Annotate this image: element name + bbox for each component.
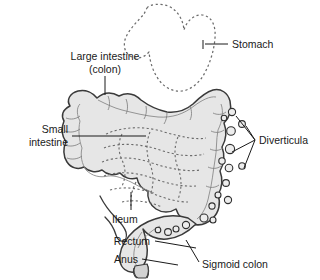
diverticulum [228,108,235,115]
diverticulum [224,196,231,203]
diverticulum [225,144,234,153]
diverticulum [210,217,216,223]
diverticulum [215,192,221,198]
diverticulosis-diagram: Large intestine (colon) Stomach Small in… [0,0,320,280]
label-rectum: Rectum [114,235,150,247]
diverticulum [173,226,179,232]
label-small-intestine-line1: Small [42,123,68,135]
diverticulum [182,221,189,228]
diverticulum [209,203,215,209]
label-sigmoid-colon: Sigmoid colon [202,258,268,270]
diverticulum [165,229,172,236]
diverticulum [219,158,225,164]
label-large-intestine-line2: (colon) [89,63,121,75]
diverticulum [223,180,230,187]
label-small-intestine-line2: intestine [29,136,68,148]
label-diverticula: Diverticula [259,134,308,146]
diverticulum [155,227,161,233]
label-stomach: Stomach [232,38,274,50]
label-anus: Anus [114,253,138,265]
diverticulum [200,214,208,222]
diverticulum [227,127,236,136]
diverticulum [225,164,233,172]
label-ileum: Ileum [112,213,138,225]
diverticulum [221,115,227,121]
label-large-intestine-line1: Large intestine [71,50,140,62]
